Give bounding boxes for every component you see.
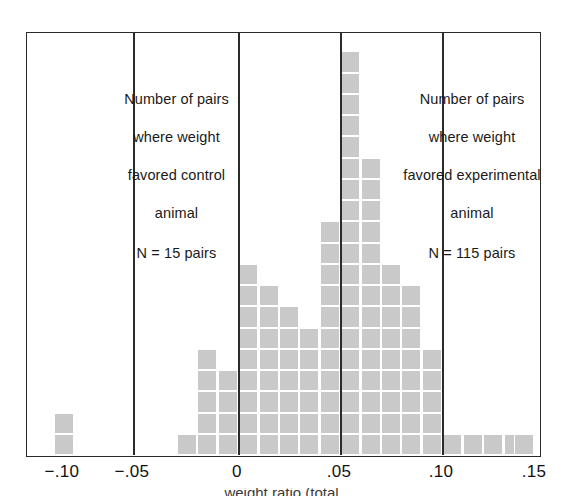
- x-tick-label-5: .15: [522, 462, 547, 482]
- histogram-cell: [422, 413, 442, 434]
- histogram-cell: [218, 391, 238, 412]
- histogram-cell: [299, 413, 319, 434]
- histogram-cell: [279, 391, 299, 412]
- histogram-cell: [238, 413, 258, 434]
- histogram-cell: [279, 370, 299, 391]
- histogram-cell: [320, 285, 340, 306]
- annotation-experimental: Number of pairs where weight favored exp…: [377, 71, 563, 282]
- histogram-cell: [442, 434, 462, 455]
- histogram-cell: [401, 328, 421, 349]
- histogram-cell: [320, 413, 340, 434]
- histogram-cell: [381, 306, 401, 327]
- x-tick-label-1: −.05: [115, 462, 150, 482]
- histogram-cell: [320, 306, 340, 327]
- annotation-experimental-line3: favored experimental: [403, 167, 540, 183]
- histogram-cell: [361, 434, 381, 455]
- histogram-cell: [320, 391, 340, 412]
- histogram-cell: [259, 413, 279, 434]
- histogram-cell: [340, 391, 360, 412]
- histogram-cell: [320, 434, 340, 455]
- histogram-cell: [340, 136, 360, 157]
- histogram-cell: [177, 434, 197, 455]
- histogram-cell: [381, 285, 401, 306]
- histogram-cell: [340, 94, 360, 115]
- x-tick-label-4: .10: [429, 462, 454, 482]
- histogram-cell: [320, 221, 340, 242]
- histogram-cell: [299, 391, 319, 412]
- histogram-cell: [381, 413, 401, 434]
- histogram-cell: [259, 434, 279, 455]
- histogram-cell: [340, 328, 360, 349]
- histogram-cell: [259, 370, 279, 391]
- histogram-cell: [361, 349, 381, 370]
- histogram-cell: [422, 391, 442, 412]
- histogram-cell: [279, 328, 299, 349]
- annotation-experimental-count: N = 115 pairs: [377, 244, 563, 263]
- x-tick-label-0: −.10: [45, 462, 80, 482]
- histogram-cell: [299, 434, 319, 455]
- histogram-cell: [238, 349, 258, 370]
- x-tick-label-2: 0: [232, 462, 242, 482]
- histogram-cell: [422, 349, 442, 370]
- reference-line-mean-line: [340, 33, 342, 455]
- histogram-cell: [320, 243, 340, 264]
- histogram-cell: [401, 349, 421, 370]
- histogram-cell: [218, 434, 238, 455]
- histogram-cell: [238, 285, 258, 306]
- x-axis-labels: −.10−.050.05.10.15: [0, 462, 563, 488]
- histogram-cell: [340, 221, 360, 242]
- annotation-experimental-line4: animal: [450, 205, 493, 221]
- histogram-cell: [340, 115, 360, 136]
- histogram-cell: [401, 306, 421, 327]
- histogram-cell: [514, 434, 534, 455]
- histogram-cell: [320, 349, 340, 370]
- histogram-cell: [279, 413, 299, 434]
- histogram-cell: [422, 434, 442, 455]
- histogram-cell: [401, 370, 421, 391]
- histogram-cell: [218, 370, 238, 391]
- histogram-cell: [340, 370, 360, 391]
- histogram-cell: [361, 370, 381, 391]
- histogram-cell: [238, 306, 258, 327]
- figure-caption-text: weight ratio (total: [0, 488, 563, 496]
- histogram-cell: [54, 434, 74, 455]
- histogram-cell: [381, 370, 401, 391]
- histogram-cell: [381, 349, 401, 370]
- histogram-cell: [381, 391, 401, 412]
- histogram-cell: [259, 391, 279, 412]
- histogram-cell: [401, 434, 421, 455]
- histogram-cell: [361, 306, 381, 327]
- histogram-cell: [299, 328, 319, 349]
- histogram-cell: [340, 243, 360, 264]
- histogram-cell: [340, 349, 360, 370]
- histogram-cell: [340, 158, 360, 179]
- histogram-cell: [320, 328, 340, 349]
- histogram-cell: [279, 434, 299, 455]
- histogram-cell: [361, 328, 381, 349]
- histogram-cell: [218, 413, 238, 434]
- plot-frame: Number of pairs where weight favored con…: [26, 32, 541, 457]
- histogram-cell: [197, 434, 217, 455]
- histogram-cell: [340, 413, 360, 434]
- histogram-cell: [340, 434, 360, 455]
- annotation-control-line1: Number of pairs: [124, 91, 229, 107]
- histogram-cell: [197, 391, 217, 412]
- histogram-cell: [381, 328, 401, 349]
- histogram-cell: [279, 306, 299, 327]
- annotation-control-line2: where weight: [133, 129, 220, 145]
- annotation-control-line4: animal: [155, 205, 198, 221]
- figure-caption-partial: weight ratio (total: [0, 488, 563, 496]
- histogram-cell: [340, 179, 360, 200]
- histogram-cell: [361, 285, 381, 306]
- annotation-experimental-line2: where weight: [429, 129, 516, 145]
- histogram-cell: [361, 391, 381, 412]
- annotation-experimental-line1: Number of pairs: [420, 91, 525, 107]
- histogram-cell: [238, 391, 258, 412]
- histogram-cell: [401, 285, 421, 306]
- annotation-control-count: N = 15 pairs: [89, 244, 264, 263]
- histogram-cell: [340, 285, 360, 306]
- histogram-cell: [401, 413, 421, 434]
- histogram-cell: [299, 370, 319, 391]
- histogram-cell: [259, 306, 279, 327]
- histogram-cell: [299, 349, 319, 370]
